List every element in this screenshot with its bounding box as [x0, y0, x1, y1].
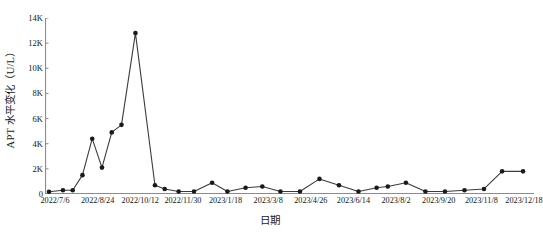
y-axis-title-text: APT 水平变化（U/L） — [3, 47, 18, 149]
axes-group — [45, 18, 534, 194]
x-axis-tick-label: 2022/7/6 — [40, 196, 69, 205]
data-point-marker — [385, 184, 390, 189]
data-point-marker — [210, 180, 215, 185]
plot-svg — [45, 18, 534, 194]
data-point-marker — [260, 184, 265, 189]
data-point-marker — [462, 188, 467, 193]
data-point-marker — [500, 169, 505, 174]
y-axis-tick-label: 6K — [19, 115, 43, 123]
x-axis-tick-label: 2022/8/24 — [81, 196, 114, 205]
data-point-marker — [443, 189, 448, 194]
data-point-marker — [404, 180, 409, 185]
data-point-marker — [337, 183, 342, 188]
x-axis-tick-label: 2023/11/8 — [465, 196, 498, 205]
data-point-marker — [278, 189, 283, 194]
data-point-marker — [192, 189, 197, 194]
data-point-marker — [243, 185, 248, 190]
data-point-marker — [423, 189, 428, 194]
data-point-marker — [109, 130, 114, 135]
data-point-marker — [225, 189, 230, 194]
data-series-markers — [47, 31, 526, 194]
x-axis-tick-label: 2022/10/12 — [122, 196, 159, 205]
data-point-marker — [176, 189, 181, 194]
plot-area — [45, 18, 534, 194]
data-point-marker — [47, 189, 52, 194]
x-axis-tick-labels: 2022/7/62022/8/242022/10/122022/11/30202… — [0, 196, 539, 212]
y-axis-tick-label: 10K — [19, 64, 43, 72]
data-series-line — [49, 33, 523, 192]
x-axis-tick-label: 2023/9/20 — [422, 196, 455, 205]
data-point-marker — [133, 31, 138, 36]
y-axis-tick-label: 14K — [19, 14, 43, 22]
data-point-marker — [100, 165, 105, 170]
x-axis-tick-label: 2023/12/18 — [505, 196, 542, 205]
data-point-marker — [521, 169, 526, 174]
x-axis-tick-label: 2023/3/8 — [254, 196, 283, 205]
data-point-marker — [298, 189, 303, 194]
data-point-marker — [119, 123, 124, 128]
y-axis-tick-label: 8K — [19, 89, 43, 97]
x-axis-tick-label: 2023/4/26 — [294, 196, 327, 205]
data-point-marker — [153, 183, 158, 188]
data-point-marker — [374, 185, 379, 190]
data-point-marker — [80, 173, 85, 178]
x-axis-title: 日期 — [0, 212, 539, 227]
data-point-marker — [482, 187, 487, 192]
data-point-marker — [317, 177, 322, 182]
x-axis-tick-label: 2023/1/18 — [209, 196, 242, 205]
x-axis-tick-label: 2022/11/30 — [164, 196, 201, 205]
data-point-marker — [61, 188, 66, 193]
data-point-marker — [90, 136, 95, 141]
data-point-marker — [162, 187, 167, 192]
y-axis-tick-label: 2K — [19, 165, 43, 173]
data-point-marker — [70, 188, 75, 193]
y-axis-tick-label: 12K — [19, 39, 43, 47]
x-axis-tick-label: 2023/8/2 — [382, 196, 411, 205]
data-point-marker — [356, 189, 361, 194]
x-axis-tick-label: 2023/6/14 — [337, 196, 370, 205]
y-axis-tick-label: 4K — [19, 140, 43, 148]
x-axis-title-text: 日期 — [260, 215, 280, 226]
